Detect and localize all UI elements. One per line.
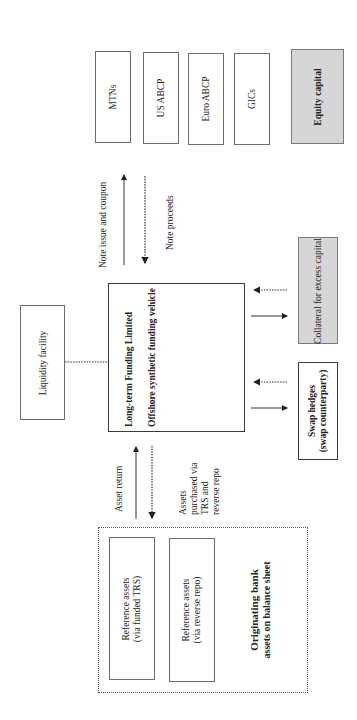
swap-hedges-text: Swap hedges (swap counterparty) <box>307 370 329 453</box>
equity-capital-label: Equity capital <box>312 68 323 125</box>
gics-label: GICs <box>247 89 258 109</box>
originating-bank-label-area: Originating bank assets on balance sheet <box>230 540 290 680</box>
ref-assets-trs-line2: (via funded TRS) <box>132 575 142 641</box>
asset-purchase-line1: Assets <box>178 490 188 515</box>
euro-abcp-box: Euro ABCP <box>188 53 224 145</box>
liquidity-facility-label: Liquidity facility <box>37 330 48 395</box>
equity-capital-box: Equity capital <box>291 49 344 144</box>
swap-hedges-box: Swap hedges (swap counterparty) <box>298 362 338 460</box>
ref-assets-trs-box: Reference assets (via funded TRS) <box>109 537 155 680</box>
ref-assets-repo-text: Reference assets (via reverse repo) <box>181 577 203 644</box>
mtns-label: MTNs <box>108 85 119 110</box>
originating-bank-line1: Originating bank <box>248 569 260 651</box>
mtns-box: MTNs <box>95 51 131 143</box>
collateral-box: Collateral for excess capital <box>298 237 338 344</box>
swap-hedges-line2: (swap counterparty) <box>318 370 328 453</box>
asset-return-label: Asset return <box>114 466 125 512</box>
asset-purchase-line2: purchased via <box>189 463 199 516</box>
asset-purchase-line4: reverse repo <box>211 468 221 515</box>
liquidity-facility-box: Liquidity facility <box>20 305 65 420</box>
funding-vehicle-box: Long-term Funding Limited Offshore synth… <box>108 283 245 432</box>
ref-assets-repo-line2: (via reverse repo) <box>192 577 202 644</box>
ref-assets-trs-line1: Reference assets <box>121 577 131 640</box>
asset-purchase-label: Assets purchased via TRS and reverse rep… <box>178 463 222 516</box>
vehicle-subtitle: Offshore synthetic funding vehicle <box>147 288 158 427</box>
us-abcp-label: US ABCP <box>156 79 167 118</box>
euro-abcp-label: Euro ABCP <box>201 76 212 121</box>
ref-assets-trs-text: Reference assets (via funded TRS) <box>121 575 143 641</box>
vehicle-title: Long-term Funding Limited <box>124 312 135 427</box>
us-abcp-box: US ABCP <box>143 52 179 144</box>
ref-assets-repo-box: Reference assets (via reverse repo) <box>169 538 215 682</box>
ref-assets-repo-line1: Reference assets <box>181 578 191 641</box>
originating-bank-text: Originating bank assets on balance sheet <box>248 562 273 659</box>
note-proceeds-label: Note proceeds <box>165 195 176 250</box>
asset-purchase-line3: TRS and <box>200 481 210 515</box>
collateral-label: Collateral for excess capital <box>313 238 324 344</box>
note-issue-label: Note issue and coupon <box>98 182 109 268</box>
gics-box: GICs <box>234 53 270 145</box>
swap-hedges-line1: Swap hedges <box>307 385 317 437</box>
originating-bank-line2: assets on balance sheet <box>261 562 272 659</box>
